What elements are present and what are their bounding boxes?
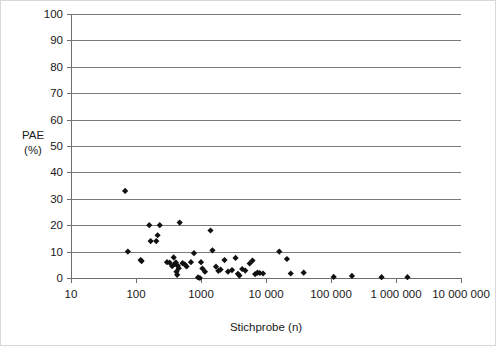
y-tick-label-9: 90 (50, 34, 63, 46)
gridlines-group (71, 15, 461, 279)
y-axis-title-line2: (%) (24, 144, 42, 156)
y-tick-label-5: 50 (50, 140, 63, 152)
data-point-0-24 (191, 250, 197, 256)
data-point-0-50 (284, 256, 290, 262)
y-tick-label-6: 60 (50, 114, 63, 126)
data-point-0-8 (157, 222, 163, 228)
data-point-0-0 (122, 188, 128, 194)
x-tick-labels-group: 10100100010 000100 0001 000 00010 000 00… (65, 288, 490, 300)
data-point-0-19 (177, 219, 183, 225)
scatter-plot-canvas: 0102030405060708090100 10100100010 00010… (1, 1, 496, 346)
x-tick-label-1: 100 (126, 288, 145, 300)
x-tick-label-3: 10 000 (248, 288, 283, 300)
x-tick-label-0: 10 (65, 288, 78, 300)
data-point-0-55 (378, 274, 384, 280)
data-point-0-30 (207, 227, 213, 233)
data-point-0-35 (221, 257, 227, 263)
y-tick-label-10: 100 (44, 8, 63, 20)
y-tick-marks-group (67, 15, 71, 279)
data-point-0-56 (404, 274, 410, 280)
x-tick-label-5: 1 000 000 (370, 288, 421, 300)
x-axis-title: Stichprobe (n) (230, 321, 302, 333)
data-point-0-49 (276, 249, 282, 255)
data-point-0-38 (232, 255, 238, 261)
y-tick-label-1: 10 (50, 246, 63, 258)
data-point-0-5 (148, 238, 154, 244)
scatter-chart-figure: 0102030405060708090100 10100100010 00010… (0, 0, 496, 346)
y-tick-label-3: 30 (50, 193, 63, 205)
y-tick-labels-group: 0102030405060708090100 (44, 8, 63, 284)
y-tick-label-4: 40 (50, 166, 63, 178)
x-tick-label-2: 1000 (188, 288, 214, 300)
data-point-0-6 (153, 238, 159, 244)
data-point-0-52 (301, 270, 307, 276)
x-tick-label-4: 100 000 (310, 288, 352, 300)
data-point-0-7 (155, 232, 161, 238)
x-tick-label-6: 10 000 000 (432, 288, 490, 300)
data-point-0-51 (288, 270, 294, 276)
y-tick-label-2: 20 (50, 219, 63, 231)
y-axis-title-line1: PAE (22, 129, 44, 141)
data-point-0-27 (198, 259, 204, 265)
data-point-0-4 (146, 222, 152, 228)
y-tick-label-7: 70 (50, 87, 63, 99)
data-point-0-23 (188, 259, 194, 265)
data-point-0-1 (125, 249, 131, 255)
data-points-group (122, 188, 411, 281)
y-tick-label-8: 80 (50, 61, 63, 73)
y-tick-label-0: 0 (57, 272, 63, 284)
